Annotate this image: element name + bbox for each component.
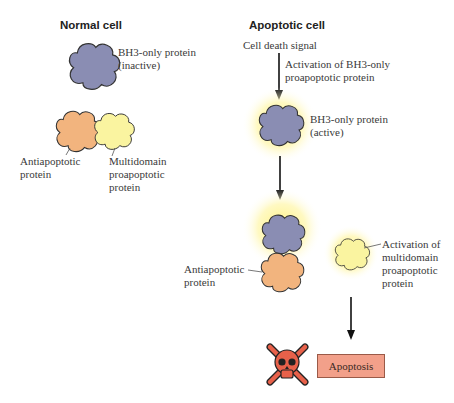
normal-cell-title: Normal cell [60,19,122,31]
bh3-active-label-1: BH3-only protein [310,113,388,126]
bh3-inactive-protein [70,44,120,90]
multi-act-label-3: proapoptotic [382,264,438,277]
bh3-inactive-label-2: (inactive) [118,59,160,72]
apoptosis-label: Apoptosis [329,360,374,372]
apoptotic-cell-title: Apoptotic cell [249,19,325,31]
cell-death-signal-label: Cell death signal [243,39,317,52]
skull-crossbones-icon [270,347,305,382]
multi-act-label-2: multidomain [382,251,438,264]
anti-active-label-1: Antiapoptotic [184,263,245,276]
bh3-anti-complex [242,188,322,292]
activation-label-1: Activation of BH3-only [285,58,390,71]
multi-act-label-4: protein [382,277,413,290]
bh3-inactive-label-1: BH3-only protein [118,46,196,59]
arrow-apoptosis [347,297,355,340]
multi-label-2: proapoptotic [109,168,165,181]
apoptosis-box: Apoptosis [317,354,385,378]
bh3-active-label-2: (active) [310,126,344,139]
multi-act-label-1: Activation of [382,238,440,251]
antiapoptotic-protein [56,111,100,151]
multi-label-3: protein [109,181,140,194]
multi-label-1: Multidomain [109,155,166,168]
anti-label-1: Antiapoptotic [20,155,81,168]
bh3-active-protein [242,87,318,163]
activation-label-2: proapoptotic protein [285,71,375,84]
multidomain-protein [95,113,135,149]
multidomain-active-protein [323,225,379,281]
anti-active-label-2: protein [184,276,215,289]
anti-label-2: protein [20,168,51,181]
